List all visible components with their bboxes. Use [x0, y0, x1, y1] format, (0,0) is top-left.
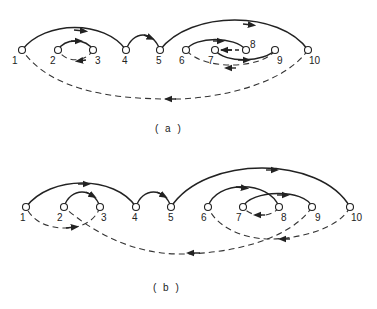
node-a-6: [183, 47, 190, 54]
panel-a: 1 2 3 4 5 6 7 8 9 10 ( a ): [12, 20, 321, 134]
label-a-8: 8: [250, 39, 256, 50]
node-a-9: [272, 47, 279, 54]
label-b-7: 7: [236, 212, 242, 223]
node-a-8: [243, 47, 250, 54]
label-b-4: 4: [132, 212, 138, 223]
label-a-4: 4: [122, 55, 128, 66]
node-b-6: [205, 204, 212, 211]
arc-a-2-3: [58, 41, 93, 50]
node-b-8: [276, 204, 283, 211]
arc-b-1-4: [26, 183, 136, 207]
node-b-1: [23, 204, 30, 211]
label-b-9: 9: [315, 212, 321, 223]
arc-b-8-7: [243, 207, 279, 215]
label-a-2: 2: [50, 55, 56, 66]
label-b-10: 10: [351, 212, 363, 223]
node-a-3: [90, 47, 97, 54]
label-b-8: 8: [281, 212, 287, 223]
node-b-10: [347, 204, 354, 211]
label-b-3: 3: [101, 212, 107, 223]
panel-b: 1 2 3 4 5 6 7 8 9 10 ( b ): [20, 168, 363, 293]
node-a-4: [123, 47, 130, 54]
node-b-9: [309, 204, 316, 211]
node-b-7: [240, 204, 247, 211]
arc-a-3-2: [58, 50, 93, 60]
node-a-7: [212, 47, 219, 54]
node-a-2: [55, 47, 62, 54]
node-b-5: [168, 204, 175, 211]
arc-a-5-10: [160, 20, 308, 50]
label-b-5: 5: [168, 212, 174, 223]
arc-b-5-10: [171, 168, 350, 207]
label-a-6: 6: [179, 55, 185, 66]
label-a-10: 10: [309, 55, 321, 66]
label-a-7: 7: [208, 55, 214, 66]
caption-b: ( b ): [153, 282, 181, 293]
diagram-canvas: 1 2 3 4 5 6 7 8 9 10 ( a ): [0, 0, 377, 309]
label-a-9: 9: [277, 55, 283, 66]
label-a-5: 5: [156, 55, 162, 66]
node-a-1: [19, 47, 26, 54]
node-b-2: [61, 204, 68, 211]
node-b-3: [97, 204, 104, 211]
arc-b-4-5: [136, 192, 171, 207]
label-a-3: 3: [95, 55, 101, 66]
arc-b-2-3: [64, 192, 100, 207]
label-b-1: 1: [20, 212, 26, 223]
arc-a-1-4: [22, 28, 126, 51]
node-b-4: [133, 204, 140, 211]
label-b-6: 6: [201, 212, 207, 223]
arc-a-4-5: [126, 35, 160, 50]
node-a-10: [305, 47, 312, 54]
label-a-1: 1: [12, 55, 18, 66]
node-a-5: [157, 47, 164, 54]
caption-a: ( a ): [155, 123, 183, 134]
label-b-2: 2: [57, 212, 63, 223]
